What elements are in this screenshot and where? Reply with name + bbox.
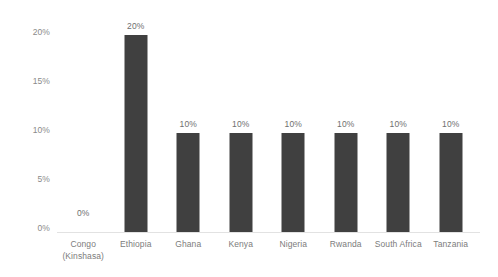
bar-chart-figure: 0% 5% 10% 15% 20% 0% 20% 10% 10% 10% 10% xyxy=(0,0,498,277)
bar-value-label: 20% xyxy=(127,22,144,31)
y-tick-label-0: 0% xyxy=(6,224,50,233)
x-tick-label-ethiopia: Ethiopia xyxy=(110,238,163,250)
bar-value-label: 10% xyxy=(337,120,354,129)
x-tick-label-tanzania: Tanzania xyxy=(425,238,478,250)
bar-slot-nigeria: 10% xyxy=(267,14,320,232)
bar-slot-south-africa: 10% xyxy=(372,14,425,232)
bar-value-label: 10% xyxy=(390,120,407,129)
bar-slot-kenya: 10% xyxy=(215,14,268,232)
x-tick-label-congo-kinshasa: Congo (Kinshasa) xyxy=(57,238,110,262)
x-tick-line: Kenya xyxy=(215,238,268,250)
x-tick-line: Rwanda xyxy=(320,238,373,250)
bar-slot-congo-kinshasa: 0% xyxy=(57,14,110,232)
x-tick-line: Tanzania xyxy=(425,238,478,250)
x-tick-line: (Kinshasa) xyxy=(57,250,110,262)
bar-value-label: 10% xyxy=(285,120,302,129)
bar-slot-tanzania: 10% xyxy=(425,14,478,232)
bar-rect[interactable] xyxy=(177,133,200,232)
x-tick-line: Ghana xyxy=(162,238,215,250)
x-tick-line: South Africa xyxy=(372,238,425,250)
x-tick-label-south-africa: South Africa xyxy=(372,238,425,250)
bar-slot-rwanda: 10% xyxy=(320,14,373,232)
bar-rect[interactable] xyxy=(282,133,305,232)
y-tick-label-2: 10% xyxy=(6,126,50,135)
bar-slot-ethiopia: 20% xyxy=(110,14,163,232)
bar-value-label: 10% xyxy=(442,120,459,129)
y-tick-label-1: 5% xyxy=(6,175,50,184)
y-axis: 0% 5% 10% 15% 20% xyxy=(0,0,50,277)
x-axis: Congo (Kinshasa) Ethiopia Ghana Kenya Ni… xyxy=(57,238,477,276)
x-tick-label-kenya: Kenya xyxy=(215,238,268,250)
x-tick-label-ghana: Ghana xyxy=(162,238,215,250)
bar-rect[interactable] xyxy=(387,133,410,232)
x-tick-label-rwanda: Rwanda xyxy=(320,238,373,250)
x-tick-line: Ethiopia xyxy=(110,238,163,250)
bar-rect[interactable] xyxy=(439,133,462,232)
bar-rect[interactable] xyxy=(334,133,357,232)
bar-rect[interactable] xyxy=(124,35,147,232)
x-tick-line: Congo xyxy=(57,238,110,250)
bar-value-label: 0% xyxy=(77,209,90,218)
plot-area: 0% 20% 10% 10% 10% 10% 10% 10% xyxy=(57,14,477,232)
x-tick-label-nigeria: Nigeria xyxy=(267,238,320,250)
x-tick-line: Nigeria xyxy=(267,238,320,250)
bar-slot-ghana: 10% xyxy=(162,14,215,232)
y-tick-label-3: 15% xyxy=(6,77,50,86)
category-axis-line xyxy=(57,232,480,233)
bar-value-label: 10% xyxy=(180,120,197,129)
bar-rect[interactable] xyxy=(229,133,252,232)
bar-value-label: 10% xyxy=(232,120,249,129)
y-tick-label-4: 20% xyxy=(6,28,50,37)
